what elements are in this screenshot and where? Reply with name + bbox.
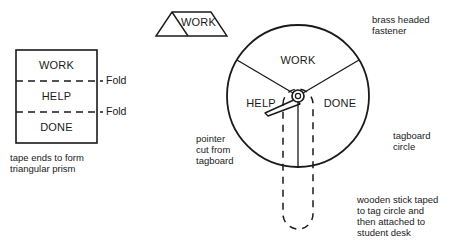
annotation-pointer-line1: pointer <box>196 133 225 144</box>
annotation-pointer-line3: tagboard <box>196 155 234 166</box>
annotation-stick-line1: wooden stick taped <box>357 194 438 205</box>
caption-tape-ends-line1: tape ends to form <box>10 152 84 163</box>
panel-segment-label-help: HELP <box>16 91 97 103</box>
wheel-sector-label-work: WORK <box>268 55 328 67</box>
wheel-sector-label-done: DONE <box>318 98 362 110</box>
annotation-fastener-line1: brass headed <box>372 14 430 25</box>
annotation-fastener-line2: fastener <box>372 25 406 36</box>
wheel-sector-label-help: HELP <box>240 98 282 110</box>
annotation-stick-line4: student desk <box>357 227 411 238</box>
panel-segment-label-done: DONE <box>16 122 97 134</box>
panel-segment-label-work: WORK <box>16 60 97 72</box>
annotation-pointer-line2: cut from <box>196 144 230 155</box>
figure-canvas: WORK HELP DONE Fold Fold tape ends to fo… <box>0 0 456 245</box>
brass-fastener-center <box>295 93 300 98</box>
caption-tape-ends-line2: triangular prism <box>10 163 75 174</box>
annotation-stick-line3: then attached to <box>357 216 425 227</box>
annotation-tagboard-circle-line2: circle <box>393 141 415 152</box>
fold-label-upper: Fold <box>106 75 126 87</box>
annotation-stick-line2: to tag circle and <box>357 205 424 216</box>
annotation-tagboard-circle-line1: tagboard <box>393 130 431 141</box>
fold-label-lower: Fold <box>106 106 126 118</box>
prism-face-label: WORK <box>181 17 216 29</box>
